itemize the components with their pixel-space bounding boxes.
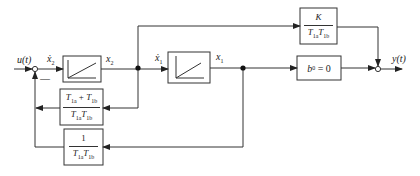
feedback-2-numerator: 1	[81, 134, 86, 144]
integrator-1-ramp	[68, 63, 96, 78]
feedback-1-numerator: T1a + T1b	[66, 93, 97, 104]
input-label: u(t)	[17, 55, 31, 65]
x2-branch-node	[135, 65, 140, 70]
gain-k-denominator: T1aT1b	[308, 28, 330, 39]
gain-k-numerator: K	[315, 13, 321, 23]
b0-label: b0 = 0	[297, 56, 341, 80]
feedback-2-denominator: T1aT1b	[73, 149, 95, 160]
integrator-2-ramp	[176, 63, 201, 78]
minus-sign: —	[40, 74, 50, 84]
x2-dot-label: ẋ2	[47, 54, 54, 66]
output-label: y(t)	[392, 54, 406, 64]
block-diagram-canvas	[0, 0, 420, 176]
x1-branch-node	[240, 65, 245, 70]
feedback-2-fraction: 1 T1aT1b	[64, 129, 103, 165]
x2-feedback-line	[103, 68, 138, 108]
integrator-2-axes	[176, 56, 204, 78]
k-output-line	[337, 27, 378, 66]
x1-dot-label: ẋ1	[155, 53, 162, 65]
feedback-1-fraction: T1a + T1b T1aT1b	[60, 89, 103, 125]
x2-label: x2	[106, 54, 113, 66]
input-summing-junction	[32, 66, 37, 71]
feedback-1-denominator: T1aT1b	[71, 110, 93, 121]
output-summing-junction	[375, 66, 380, 71]
gain-k-fraction: K T1aT1b	[300, 8, 337, 44]
x1-label: x1	[216, 52, 223, 64]
